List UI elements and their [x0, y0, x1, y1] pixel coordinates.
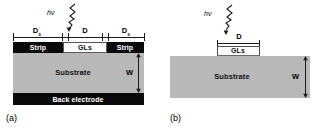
dimension-tick-a-6	[144, 33, 145, 41]
dimension-label-left-strip-sub: s	[38, 31, 41, 37]
dimension-label-gls-text: D	[236, 32, 242, 41]
caption-b: (b)	[170, 113, 181, 123]
panel-b: hν D GLs Substrate W (b)	[164, 0, 327, 131]
thickness-arrow-b	[301, 56, 310, 98]
figure-device-schematics: hν Ds D Ds Strip GLs Strip Substrate	[0, 0, 327, 131]
photon-arrow-icon-b	[215, 4, 237, 36]
dimension-label-gap: D	[82, 27, 88, 38]
substrate-label-b: Substrate	[214, 73, 250, 81]
graphene-layer-label-b: GLs	[231, 47, 245, 55]
dimension-label-gls: D	[236, 33, 242, 44]
substrate-label-a: Substrate	[55, 69, 91, 77]
caption-a: (a)	[6, 113, 17, 123]
dimension-label-gap-text: D	[82, 26, 88, 35]
dimension-label-left-strip: Ds	[33, 27, 41, 38]
panel-a: hν Ds D Ds Strip GLs Strip Substrate	[0, 0, 163, 131]
dimension-label-right-strip: Ds	[122, 27, 130, 38]
thickness-label-b: W	[292, 73, 299, 81]
dimension-tick-a-4	[102, 33, 103, 41]
thickness-arrow-a	[134, 53, 143, 93]
left-strip-label: Strip	[30, 44, 46, 52]
dimension-label-right-strip-sub: s	[127, 31, 130, 37]
right-strip-label: Strip	[117, 44, 133, 52]
back-electrode-label: Back electrode	[52, 96, 103, 104]
photon-arrow-icon	[58, 3, 80, 33]
dimension-tick-a-5	[108, 33, 109, 41]
dimension-tick-a-3	[68, 33, 69, 41]
dimension-tick-a-2	[62, 33, 63, 41]
photon-label-b: hν	[204, 10, 211, 17]
dimension-tick-a-1	[13, 33, 14, 41]
photon-label-a: hν	[47, 9, 54, 16]
graphene-layer-label-a: GLs	[78, 44, 92, 52]
thickness-label-a: W	[126, 69, 133, 77]
